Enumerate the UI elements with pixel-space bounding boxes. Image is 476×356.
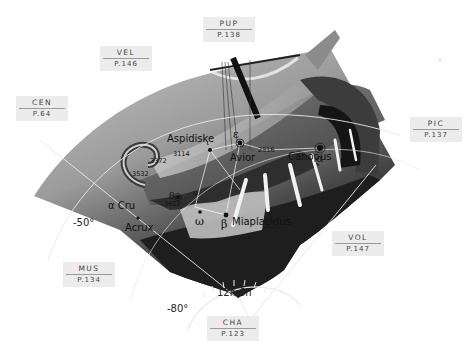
tag-page: P.134 xyxy=(63,275,115,287)
tag-abbr: PUP xyxy=(206,17,252,30)
tag-abbr: CHA xyxy=(210,316,256,329)
tag-page: P.137 xyxy=(410,130,462,142)
label-miaplacidus: Miaplacidus xyxy=(232,216,291,227)
label-avior: Avior xyxy=(230,152,255,163)
tag-mus[interactable]: MUS P.134 xyxy=(63,262,115,287)
label-num-3114: 3114 xyxy=(173,150,190,158)
tag-abbr: VOL xyxy=(335,231,381,244)
tag-cha[interactable]: CHA P.123 xyxy=(207,316,259,341)
star-acrux xyxy=(136,216,139,219)
tag-pic[interactable]: PIC P.137 xyxy=(410,117,462,142)
label-num-2516: 2516 xyxy=(258,146,275,154)
label-num-3532: 3532 xyxy=(132,170,149,178)
tag-vel[interactable]: VEL P.146 xyxy=(100,46,152,71)
star-chart-carina xyxy=(0,0,476,356)
tag-abbr: CEN xyxy=(19,96,65,109)
label-greek-iota: ι xyxy=(206,138,209,147)
tag-pup[interactable]: PUP P.138 xyxy=(203,17,255,42)
label-greek-omega: ω xyxy=(195,215,204,228)
tag-abbr: VEL xyxy=(103,46,149,59)
label-ra-12h: 12h xyxy=(217,287,236,298)
label-dec-minus50: -50° xyxy=(73,217,94,228)
star-avior xyxy=(238,141,243,146)
tag-abbr: PIC xyxy=(413,117,459,130)
label-num-3602: 3602 xyxy=(164,200,181,208)
star-omega xyxy=(198,210,202,214)
star-aspidiske xyxy=(208,148,212,152)
tag-page: P.64 xyxy=(16,109,68,121)
label-dec-minus80: -80° xyxy=(167,303,188,314)
tag-page: P.123 xyxy=(207,329,259,341)
label-acrux: Acrux xyxy=(125,222,154,233)
tag-cen[interactable]: CEN P.64 xyxy=(16,96,68,121)
tag-vol[interactable]: VOL P.147 xyxy=(332,231,384,256)
stray-star xyxy=(439,59,441,61)
tag-abbr: MUS xyxy=(66,262,112,275)
label-canopus: Canopus xyxy=(288,151,331,162)
tag-page: P.147 xyxy=(332,244,384,256)
tag-page: P.138 xyxy=(203,30,255,42)
label-greek-alpha: α xyxy=(316,152,323,165)
label-greek-upsilon: υ xyxy=(193,188,198,197)
label-ra-6h: 6h xyxy=(239,287,252,298)
star-theta xyxy=(176,195,180,199)
star-miaplacidus xyxy=(224,213,229,218)
label-num-3372: 3372 xyxy=(150,157,167,165)
label-alpha-cru: α Cru xyxy=(108,200,135,211)
tag-page: P.146 xyxy=(100,59,152,71)
label-greek-epsilon: ε xyxy=(233,128,239,141)
label-greek-beta: β xyxy=(221,218,227,231)
